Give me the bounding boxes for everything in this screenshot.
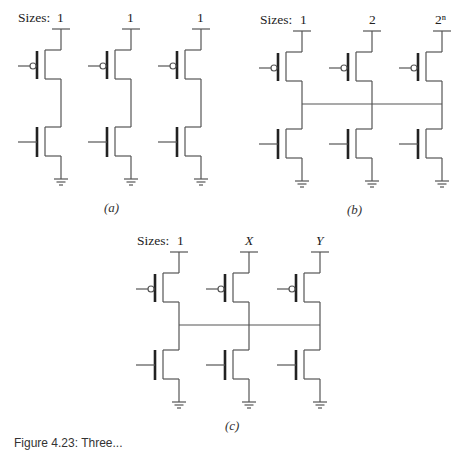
- inverter-b3: [399, 31, 451, 187]
- panel-caption-c: (c): [225, 418, 239, 434]
- inverter-a2: [88, 29, 140, 185]
- panel-caption-a: (a): [104, 200, 119, 216]
- inverter-b1: [259, 31, 311, 187]
- size-a3: 1: [197, 10, 204, 26]
- sizes-label-c: Sizes:: [137, 233, 169, 249]
- size-c3: Y: [316, 233, 324, 249]
- inverter-a1: [18, 29, 70, 185]
- panel-caption-b: (b): [347, 202, 362, 218]
- panel-c: [136, 252, 329, 408]
- inverter-c3: [277, 252, 329, 408]
- sizes-label-b: Sizes:: [260, 12, 292, 28]
- size-a1: 1: [57, 10, 64, 26]
- size-b2: 2: [369, 12, 376, 28]
- inverter-b2: [329, 31, 381, 187]
- inverter-c2: [206, 252, 258, 408]
- size-c1: 1: [177, 233, 184, 249]
- size-b3: 2ⁿ: [435, 12, 446, 28]
- inverter-c1: [136, 252, 188, 408]
- size-c2: X: [245, 233, 253, 249]
- panel-a: [18, 29, 210, 185]
- panel-b: [259, 31, 451, 187]
- inverter-a3: [158, 29, 210, 185]
- size-b1: 1: [300, 12, 307, 28]
- size-a2: 1: [127, 10, 134, 26]
- figure-caption: Figure 4.23: Three...: [14, 436, 123, 450]
- sizes-label-a: Sizes:: [18, 10, 50, 26]
